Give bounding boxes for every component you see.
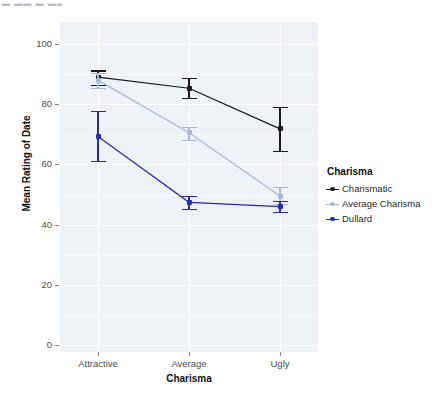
data-point [96, 134, 101, 139]
legend-item-average-charisma[interactable]: Average Charisma [326, 197, 436, 211]
y-axis-title: Mean Rating of Date [21, 94, 32, 234]
legend-item-label: Dullard [342, 213, 372, 225]
y-axis-tick-label: 0 [18, 340, 52, 350]
y-axis-tick-label: 20 [18, 280, 52, 290]
error-bar-cap [91, 161, 106, 162]
data-point [96, 78, 101, 83]
error-bar-cap [91, 70, 106, 71]
error-bar-cap [182, 98, 197, 99]
error-bar-cap [182, 140, 197, 141]
legend-key-icon [326, 183, 339, 196]
data-marks-layer [60, 22, 318, 352]
legend-title: Charisma [326, 166, 436, 177]
data-point [278, 126, 283, 131]
data-point [278, 194, 283, 199]
x-axis-tick-mark [280, 352, 281, 356]
legend-item-charismatic[interactable]: Charismatic [326, 182, 436, 196]
legend-item-label: Average Charisma [342, 198, 421, 210]
error-bar-cap [91, 88, 106, 89]
data-point [278, 204, 283, 209]
legend-items: CharismaticAverage CharismaDullard [326, 182, 436, 226]
error-bar-cap [273, 212, 288, 213]
y-axis-tick-mark [55, 44, 59, 45]
y-axis-tick-label: 100 [18, 39, 52, 49]
x-axis-title: Charisma [60, 373, 318, 384]
error-bar-cap [273, 201, 288, 202]
legend-key-icon [326, 198, 339, 211]
x-axis-tick-mark [189, 352, 190, 356]
chart-figure: 020406080100 AttractiveAverageUgly Mean … [0, 0, 438, 404]
data-point [187, 130, 192, 135]
error-bar-cap [182, 78, 197, 79]
error-bar-cap [182, 127, 197, 128]
legend-key-icon [326, 213, 339, 226]
x-axis-tick-label: Ugly [240, 358, 320, 369]
error-bar-cap [182, 209, 197, 210]
error-bar-cap [273, 107, 288, 108]
plot-panel [60, 22, 318, 352]
legend-item-label: Charismatic [342, 183, 392, 195]
y-axis-tick-mark [55, 225, 59, 226]
y-axis-tick-mark [55, 104, 59, 105]
legend: Charisma CharismaticAverage CharismaDull… [326, 166, 436, 227]
y-axis-tick-mark [55, 345, 59, 346]
error-bar-cap [91, 111, 106, 112]
y-axis-tick-mark [55, 164, 59, 165]
x-axis-tick-mark [98, 352, 99, 356]
x-axis-tick-label: Average [149, 358, 229, 369]
data-point [187, 200, 192, 205]
legend-item-dullard[interactable]: Dullard [326, 212, 436, 226]
error-bar-cap [91, 73, 106, 74]
x-axis-tick-label: Attractive [58, 358, 138, 369]
error-bar-cap [182, 196, 197, 197]
error-bar-cap [273, 187, 288, 188]
y-axis-tick-mark [55, 285, 59, 286]
data-point [187, 86, 192, 91]
error-bar-cap [273, 151, 288, 152]
